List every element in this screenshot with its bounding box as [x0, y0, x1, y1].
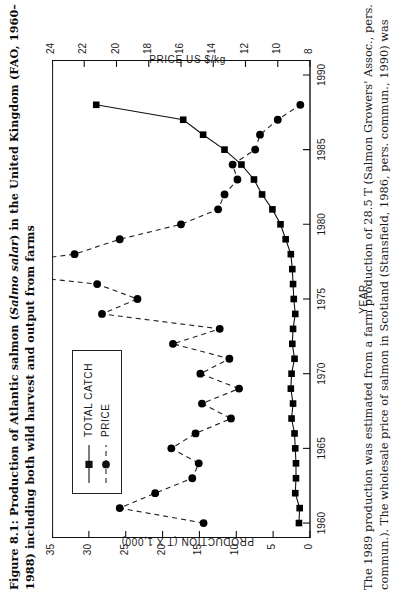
data-point-price: [234, 176, 242, 184]
x-axis-tick-1990: 1990: [316, 55, 327, 95]
x-axis-tick-1980: 1980: [316, 204, 327, 244]
figure-footnote: The 1989 production was estimated from a…: [360, 4, 392, 590]
data-point-total-catch: [292, 490, 299, 497]
x-axis-tick-1970: 1970: [316, 354, 327, 394]
figure-caption-species: Salmo salar: [7, 240, 21, 315]
data-point-total-catch: [292, 445, 299, 452]
y-axis-left-tick-0: 0: [303, 544, 314, 570]
chart-plot-area: PRODUCTION (T X 1,000) PRICE US $/kg YEA…: [52, 60, 338, 538]
data-point-total-catch: [282, 236, 289, 243]
data-point-price: [198, 400, 206, 408]
data-point-price: [134, 295, 142, 303]
y-axis-right-tick-24: 24: [45, 28, 56, 54]
y-axis-right-tick-16: 16: [174, 28, 185, 54]
data-point-total-catch: [251, 176, 258, 183]
data-point-price: [71, 250, 79, 258]
data-point-price: [188, 474, 196, 482]
y-axis-right-tick-22: 22: [77, 28, 88, 54]
data-point-total-catch: [93, 102, 100, 109]
data-point-price: [229, 161, 237, 169]
y-axis-left-tick-30: 30: [82, 544, 93, 570]
data-point-price: [116, 504, 124, 512]
data-point-total-catch: [296, 520, 303, 527]
y-axis-left-tick-25: 25: [119, 544, 130, 570]
data-point-total-catch: [290, 296, 297, 303]
y-axis-left-tick-20: 20: [156, 544, 167, 570]
data-point-total-catch: [290, 400, 297, 407]
legend-key-circle-dashed-icon: [100, 444, 112, 484]
data-point-price: [93, 280, 101, 288]
data-point-price: [200, 519, 208, 527]
x-axis-tick-1960: 1960: [316, 503, 327, 543]
y-axis-right-title: PRICE US $/kg: [45, 54, 331, 65]
y-axis-left-tick-15: 15: [192, 544, 203, 570]
data-point-price: [196, 370, 204, 378]
y-axis-left-tick-5: 5: [266, 544, 277, 570]
data-point-total-catch: [180, 116, 187, 123]
data-point-price: [235, 385, 243, 393]
data-point-total-catch: [288, 370, 295, 377]
data-point-price: [227, 415, 235, 423]
data-point-total-catch: [269, 206, 276, 213]
data-point-total-catch: [293, 475, 300, 482]
data-point-price: [195, 459, 203, 467]
data-point-total-catch: [288, 251, 295, 258]
data-point-total-catch: [292, 311, 299, 318]
data-point-price: [274, 116, 282, 124]
x-axis-tick-1975: 1975: [316, 279, 327, 319]
data-point-total-catch: [289, 266, 296, 273]
figure-caption-title: Figure 8.1: Production of Atlantic salmo…: [6, 4, 38, 590]
data-point-total-catch: [290, 326, 297, 333]
y-axis-left-tick-10: 10: [229, 544, 240, 570]
data-point-price: [177, 220, 185, 228]
legend-key-square-solid-icon: [83, 444, 95, 484]
y-axis-left-tick-35: 35: [45, 544, 56, 570]
data-point-total-catch: [277, 221, 284, 228]
legend-item-total-catch: TOTAL CATCH: [80, 363, 97, 484]
data-point-price: [192, 430, 200, 438]
data-point-price: [214, 205, 222, 213]
x-axis-tick-1965: 1965: [316, 428, 327, 468]
data-point-total-catch: [290, 281, 297, 288]
data-point-price: [225, 355, 233, 363]
data-point-total-catch: [291, 430, 298, 437]
chart-legend: TOTAL CATCH PRICE: [72, 350, 122, 494]
data-point-total-catch: [288, 415, 295, 422]
legend-item-price: PRICE: [97, 363, 114, 484]
x-axis-tick-1985: 1985: [316, 130, 327, 170]
x-axis-ticks: [303, 75, 310, 523]
data-point-total-catch: [288, 385, 295, 392]
data-point-price: [216, 325, 224, 333]
data-point-total-catch: [289, 341, 296, 348]
data-point-price: [167, 444, 175, 452]
y-axis-right-tick-14: 14: [206, 28, 217, 54]
figure-page: Figure 8.1: Production of Atlantic salmo…: [0, 0, 410, 594]
y-axis-right-tick-8: 8: [303, 28, 314, 54]
data-point-price: [169, 340, 177, 348]
y-axis-right-tick-12: 12: [239, 28, 250, 54]
data-point-price: [296, 101, 304, 109]
y-axis-right-tick-18: 18: [142, 28, 153, 54]
data-point-total-catch: [293, 460, 300, 467]
y-axis-right-tick-10: 10: [271, 28, 282, 54]
data-point-price: [221, 191, 229, 199]
y-axis-right-tick-20: 20: [110, 28, 121, 54]
data-point-total-catch: [291, 355, 298, 362]
data-point-price: [256, 131, 264, 139]
data-point-total-catch: [200, 131, 207, 138]
data-point-price: [151, 489, 159, 497]
figure-caption-prefix: Figure 8.1: Production of Atlantic salmo…: [7, 315, 21, 590]
data-point-price: [98, 310, 106, 318]
data-point-total-catch: [259, 191, 266, 198]
legend-label-price: PRICE: [100, 403, 111, 437]
data-point-total-catch: [221, 146, 228, 153]
data-point-total-catch: [296, 505, 303, 512]
data-point-price: [251, 146, 259, 154]
data-point-price: [116, 235, 124, 243]
legend-label-total-catch: TOTAL CATCH: [83, 363, 94, 437]
data-point-total-catch: [238, 161, 245, 168]
